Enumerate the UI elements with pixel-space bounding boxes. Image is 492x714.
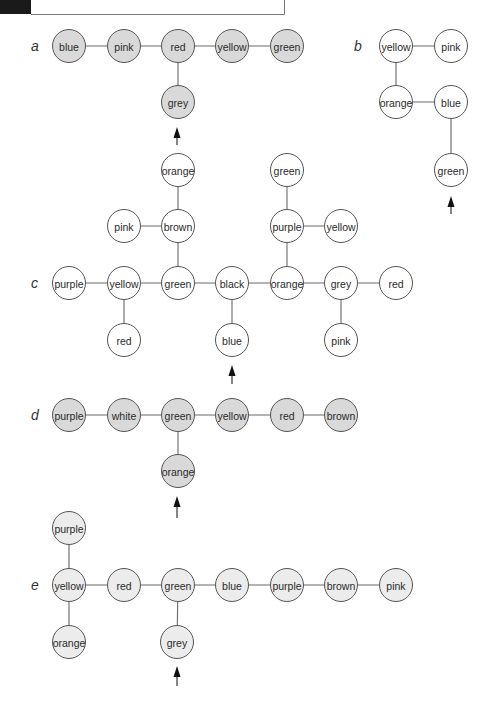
arrow-up-icon [229,365,236,384]
node-label: purple [272,221,301,233]
node-label: green [165,580,192,592]
node-label: purple [54,523,83,535]
node-orange: orange [53,626,86,659]
node-orange: orange [162,154,195,187]
node-label: blue [222,580,242,592]
node-label: purple [54,410,83,422]
node-label: orange [53,637,86,649]
header-frame-line [31,0,285,15]
node-purple: purple [271,210,304,243]
node-label: purple [272,580,301,592]
node-green: green [162,569,195,602]
node-green: green [271,30,304,63]
panel-label: a [31,38,39,54]
node-red: red [108,569,141,602]
node-white: white [108,399,141,432]
panel-label: d [31,407,40,423]
node-label: pink [331,335,351,347]
node-black: black [216,267,249,300]
node-label: green [274,41,301,53]
node-label: grey [167,637,188,649]
node-label: red [116,335,131,347]
node-label: orange [380,97,413,109]
node-label: yellow [217,410,247,422]
node-purple: purple [53,512,86,545]
node-green: green [271,154,304,187]
node-yellow: yellow [216,30,249,63]
node-label: grey [168,97,189,109]
arrow-up-icon [174,496,181,518]
arrow-up-icon [448,196,455,214]
node-yellow: yellow [380,30,413,63]
node-green: green [435,154,468,187]
node-label: pink [114,41,134,53]
node-label: yellow [109,278,139,290]
node-orange: orange [271,267,304,300]
node-label: green [274,165,301,177]
diagram-canvas: abluepinkredyellowgreengreybyellowpinkor… [0,0,492,714]
node-pink: pink [108,210,141,243]
node-label: green [438,165,465,177]
node-pink: pink [325,324,358,357]
panel-e: epurpleyelloworangeredgreenbluepurplebro… [31,512,413,687]
panel-label: b [354,38,362,54]
node-blue: blue [216,324,249,357]
node-label: orange [162,466,195,478]
node-pink: pink [380,569,413,602]
node-label: red [279,410,294,422]
node-grey: grey [161,626,194,659]
node-label: yellow [326,221,356,233]
node-pink: pink [435,30,468,63]
node-brown: brown [162,210,195,243]
node-blue: blue [435,86,468,119]
node-label: pink [114,221,134,233]
node-label: grey [331,278,352,290]
panel-label: c [31,275,38,291]
node-red: red [108,324,141,357]
node-label: pink [386,580,406,592]
panel-a: abluepinkredyellowgreengrey [31,30,304,146]
node-orange: orange [380,86,413,119]
node-label: brown [164,221,193,233]
node-label: black [220,278,245,290]
node-label: yellow [54,580,84,592]
node-purple: purple [271,569,304,602]
node-brown: brown [325,399,358,432]
node-label: orange [162,165,195,177]
node-label: red [170,41,185,53]
node-grey: grey [162,86,195,119]
node-label: orange [271,278,304,290]
node-yellow: yellow [108,267,141,300]
panels: abluepinkredyellowgreengreybyellowpinkor… [31,30,468,687]
node-pink: pink [108,30,141,63]
node-yellow: yellow [325,210,358,243]
node-purple: purple [53,399,86,432]
node-brown: brown [325,569,358,602]
header-tab-block [0,0,31,14]
node-purple: purple [53,267,86,300]
node-blue: blue [53,30,86,63]
node-label: pink [441,41,461,53]
arrow-up-icon [174,127,181,145]
node-green: green [162,267,195,300]
node-green: green [162,399,195,432]
node-label: red [388,278,403,290]
node-blue: blue [216,569,249,602]
node-label: blue [59,41,79,53]
arrow-up-icon [174,666,181,686]
node-yellow: yellow [216,399,249,432]
node-label: blue [222,335,242,347]
node-label: yellow [381,41,411,53]
node-label: white [111,410,137,422]
node-label: green [165,278,192,290]
node-label: yellow [217,41,247,53]
panel-d: dpurplewhitegreenyellowredbrownorange [31,399,358,519]
node-label: purple [54,278,83,290]
node-label: red [116,580,131,592]
node-red: red [380,267,413,300]
node-label: green [165,410,192,422]
node-red: red [162,30,195,63]
node-red: red [271,399,304,432]
panel-label: e [31,577,39,593]
node-label: blue [441,97,461,109]
